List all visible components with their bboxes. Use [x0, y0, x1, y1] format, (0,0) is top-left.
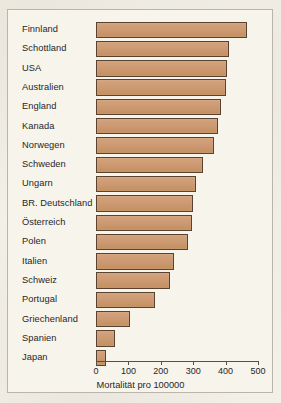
- bar-row: Japan: [0, 348, 281, 367]
- x-axis-tick-label: 100: [121, 366, 136, 376]
- bar-category-label: Australien: [22, 78, 94, 97]
- bar-category-label: USA: [22, 59, 94, 78]
- x-axis-tick-label: 400: [218, 366, 233, 376]
- x-axis-tick: [96, 361, 97, 365]
- x-axis-line: [96, 361, 258, 362]
- bar-australien: [96, 79, 226, 95]
- bar-category-label: Griechenland: [22, 310, 94, 329]
- bar-row: Ungarn: [0, 174, 281, 193]
- bar-category-label: Schottland: [22, 39, 94, 58]
- bar-griechenland: [96, 311, 130, 327]
- bar-row: Schweden: [0, 155, 281, 174]
- bar-row: Schweiz: [0, 271, 281, 290]
- bar-japan: [96, 350, 106, 366]
- bar-category-label: Spanien: [22, 329, 94, 348]
- bar-row: BR. Deutschland: [0, 194, 281, 213]
- bar-category-label: Finnland: [22, 20, 94, 39]
- bar-row: Spanien: [0, 329, 281, 348]
- bar-polen: [96, 234, 188, 250]
- x-axis-tick: [193, 361, 194, 365]
- bar-row: Griechenland: [0, 310, 281, 329]
- x-axis-tick-label: 300: [186, 366, 201, 376]
- x-axis-title: Mortalität pro 100000: [0, 380, 281, 390]
- bar-row: Kanada: [0, 117, 281, 136]
- x-axis-tick-label: 0: [93, 366, 98, 376]
- bar-schweden: [96, 157, 203, 173]
- bar-category-label: BR. Deutschland: [22, 194, 94, 213]
- bar-row: USA: [0, 59, 281, 78]
- bar-category-label: Schweden: [22, 155, 94, 174]
- bar-england: [96, 99, 221, 115]
- bar-category-label: Österreich: [22, 213, 94, 232]
- bar-sterreich: [96, 215, 192, 231]
- x-axis-tick: [258, 361, 259, 365]
- bar-chart-plot-area: FinnlandSchottlandUSAAustralienEnglandKa…: [0, 0, 281, 403]
- bar-finnland: [96, 22, 247, 38]
- bar-br-deutschland: [96, 195, 193, 211]
- bar-category-label: England: [22, 97, 94, 116]
- x-axis-tick: [161, 361, 162, 365]
- bar-italien: [96, 253, 174, 269]
- bar-norwegen: [96, 137, 214, 153]
- bar-spanien: [96, 330, 115, 346]
- bar-ungarn: [96, 176, 196, 192]
- bar-row: Finnland: [0, 20, 281, 39]
- bar-row: Australien: [0, 78, 281, 97]
- bar-usa: [96, 60, 227, 76]
- x-axis-tick: [128, 361, 129, 365]
- bar-row: Italien: [0, 252, 281, 271]
- bar-schweiz: [96, 272, 170, 288]
- bar-row: Polen: [0, 232, 281, 251]
- x-axis-tick-label: 200: [153, 366, 168, 376]
- bar-category-label: Italien: [22, 252, 94, 271]
- bar-category-label: Schweiz: [22, 271, 94, 290]
- bar-category-label: Ungarn: [22, 174, 94, 193]
- bar-category-label: Polen: [22, 232, 94, 251]
- bar-row: England: [0, 97, 281, 116]
- bar-row: Schottland: [0, 39, 281, 58]
- bar-portugal: [96, 292, 155, 308]
- bar-row: Österreich: [0, 213, 281, 232]
- x-axis-tick-label: 500: [250, 366, 265, 376]
- x-axis-tick: [226, 361, 227, 365]
- bar-row: Norwegen: [0, 136, 281, 155]
- bar-category-label: Norwegen: [22, 136, 94, 155]
- bar-schottland: [96, 41, 229, 57]
- bar-category-label: Japan: [22, 348, 94, 367]
- bar-category-label: Portugal: [22, 290, 94, 309]
- chart-figure: FinnlandSchottlandUSAAustralienEnglandKa…: [0, 0, 281, 403]
- bar-row: Portugal: [0, 290, 281, 309]
- bar-category-label: Kanada: [22, 117, 94, 136]
- bar-kanada: [96, 118, 218, 134]
